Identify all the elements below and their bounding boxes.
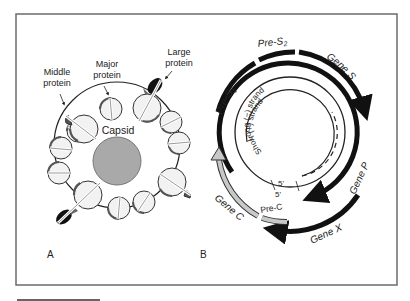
hbv-figure: Capsid Middle protein Major protein Larg…: [0, 0, 410, 301]
large-protein-label-1: Large: [167, 47, 190, 57]
major-protein-label-1: Major: [96, 59, 119, 69]
five-prime-label-a: 5': [278, 179, 284, 188]
middle-protein-label-2: protein: [43, 78, 71, 88]
capsid-label: Capsid: [102, 124, 135, 136]
major-protein-label-2: protein: [93, 70, 121, 80]
five-prime-label-b: 5': [275, 190, 281, 199]
panel-a-label: A: [47, 249, 54, 260]
middle-protein-label-1: Middle: [44, 67, 71, 77]
panel-b-label: B: [200, 249, 207, 260]
figure-frame: [16, 14, 397, 285]
capsid-core: [93, 137, 141, 185]
large-protein-label-2: protein: [165, 58, 193, 68]
